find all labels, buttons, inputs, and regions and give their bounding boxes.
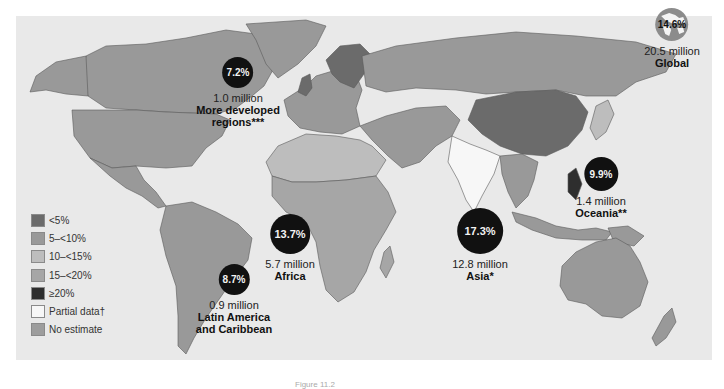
legend-swatch bbox=[31, 323, 45, 336]
country-india bbox=[448, 136, 500, 212]
legend-item-15-20: 15–<20% bbox=[31, 266, 105, 284]
legend-item-no-estimate: No estimate bbox=[31, 321, 105, 339]
latin-america-label-1: Latin America bbox=[196, 311, 272, 323]
latin-america-count: 0.9 million bbox=[196, 299, 272, 311]
oceania-bubble: 9.9% bbox=[584, 157, 618, 191]
region-global: 14.6% 20.5 million Global bbox=[644, 8, 700, 69]
legend-swatch bbox=[31, 287, 45, 300]
latin-america-bubble: 8.7% bbox=[219, 264, 250, 295]
africa-bubble: 13.7% bbox=[270, 214, 310, 254]
asia-label: Asia* bbox=[452, 270, 508, 282]
legend-item-lt5: <5% bbox=[31, 211, 105, 229]
country-alaska bbox=[30, 56, 88, 96]
legend-label: 15–<20% bbox=[49, 270, 92, 281]
region-latin-america: 8.7% 0.9 million Latin America and Carib… bbox=[196, 264, 272, 335]
legend: <5% 5–<10% 10–<15% 15–<20% ≥20% Partial … bbox=[31, 211, 105, 339]
legend-item-partial: Partial data† bbox=[31, 302, 105, 320]
legend-label: ≥20% bbox=[49, 288, 75, 299]
more-developed-percent: 7.2% bbox=[227, 67, 250, 78]
global-count: 20.5 million bbox=[644, 45, 700, 57]
legend-label: <5% bbox=[49, 215, 69, 226]
region-africa: 13.7% 5.7 million Africa bbox=[265, 214, 315, 282]
legend-swatch bbox=[31, 232, 45, 245]
more-developed-label-2: regions*** bbox=[196, 116, 280, 128]
asia-count: 12.8 million bbox=[452, 258, 508, 270]
country-australia bbox=[560, 238, 648, 318]
latin-america-label-2: and Caribbean bbox=[196, 323, 272, 335]
country-madagascar bbox=[380, 246, 394, 278]
legend-label: Partial data† bbox=[49, 306, 105, 317]
more-developed-label-1: More developed bbox=[196, 104, 280, 116]
latin-america-percent: 8.7% bbox=[223, 274, 246, 285]
country-new-zealand bbox=[652, 308, 676, 346]
africa-percent: 13.7% bbox=[274, 228, 305, 240]
figure-caption: Figure 11.2 bbox=[295, 380, 335, 389]
africa-count: 5.7 million bbox=[265, 258, 315, 270]
region-southeast-asia bbox=[500, 154, 538, 208]
region-more-developed: 7.2% 1.0 million More developed regions*… bbox=[196, 57, 280, 128]
africa-label: Africa bbox=[265, 270, 315, 282]
oceania-label: Oceania** bbox=[575, 207, 626, 219]
legend-item-gte20: ≥20% bbox=[31, 284, 105, 302]
global-label: Global bbox=[644, 57, 700, 69]
more-developed-count: 1.0 million bbox=[196, 92, 280, 104]
legend-label: 5–<10% bbox=[49, 233, 86, 244]
legend-swatch bbox=[31, 214, 45, 227]
asia-percent: 17.3% bbox=[464, 225, 495, 237]
region-oceania: 9.9% 1.4 million Oceania** bbox=[575, 157, 626, 219]
global-percent: 14.6% bbox=[658, 19, 686, 30]
asia-bubble: 17.3% bbox=[457, 208, 503, 254]
legend-swatch bbox=[31, 305, 45, 318]
more-developed-bubble: 7.2% bbox=[223, 57, 254, 88]
legend-swatch bbox=[31, 250, 45, 263]
oceania-percent: 9.9% bbox=[590, 169, 613, 180]
legend-item-10-15: 10–<15% bbox=[31, 248, 105, 266]
legend-label: No estimate bbox=[49, 324, 102, 335]
country-china bbox=[468, 90, 588, 156]
region-north-africa bbox=[266, 134, 386, 182]
legend-item-5-10: 5–<10% bbox=[31, 229, 105, 247]
legend-swatch bbox=[31, 269, 45, 282]
globe-icon: 14.6% bbox=[655, 8, 688, 41]
oceania-count: 1.4 million bbox=[575, 195, 626, 207]
country-japan bbox=[590, 100, 614, 140]
legend-label: 10–<15% bbox=[49, 251, 92, 262]
country-russia bbox=[362, 32, 676, 96]
region-asia: 17.3% 12.8 million Asia* bbox=[452, 208, 508, 282]
